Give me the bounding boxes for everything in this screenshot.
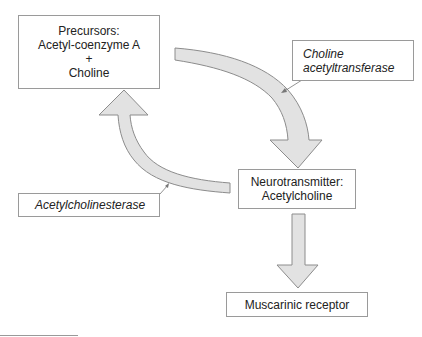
neurotransmitter-title: Neurotransmitter: [251,175,344,189]
neurotransmitter-node: Neurotransmitter: Acetylcholine [238,169,356,209]
enzyme-degradation-text: Acetylcholinesterase [35,198,145,212]
receptor-arrow [277,214,318,288]
precursors-plus: + [85,52,92,66]
receptor-label: Muscarinic receptor [245,298,350,312]
footnote-rule [0,335,78,336]
precursors-acetyl-coa: Acetyl-coenzyme A [38,38,140,52]
degradation-arrow [99,90,230,193]
precursors-choline: Choline [69,66,110,80]
precursors-title: Precursors: [58,24,119,38]
precursors-node: Precursors: Acetyl-coenzyme A + Choline [18,15,160,89]
enzyme-synthesis-line2: acetyltransferase [303,61,394,75]
enzyme-synthesis-line1: Choline [303,47,344,61]
muscarinic-receptor-node: Muscarinic receptor [226,292,368,317]
choline-acetyltransferase-label: Choline acetyltransferase [292,40,414,81]
neurotransmitter-name: Acetylcholine [262,189,333,203]
acetylcholinesterase-label: Acetylcholinesterase [18,193,160,217]
